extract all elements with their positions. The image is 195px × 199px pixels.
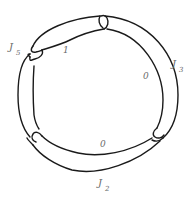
clasp-left [28, 46, 42, 60]
svg-text:2: 2 [104, 185, 110, 193]
svg-text:3: 3 [179, 66, 184, 74]
svg-text:5: 5 [16, 49, 21, 57]
svg-text:J: J [96, 177, 103, 188]
svg-text:J: J [7, 41, 14, 52]
clasp-lower-left [27, 132, 42, 145]
label-j3: J 3 [170, 58, 184, 74]
framing-label-j5: 1 [63, 45, 69, 55]
label-j2: J 2 [96, 177, 110, 193]
framing-label-j2: 0 [100, 139, 106, 149]
label-j5: J 5 [7, 41, 21, 57]
band-clasp-diagram: J 5 J 3 J 2 1 0 0 [0, 0, 195, 199]
svg-text:J: J [170, 58, 177, 69]
band-j5-left [18, 54, 39, 137]
clasp-lower-right [152, 128, 164, 141]
framing-label-j3: 0 [143, 71, 149, 81]
clasp-top [99, 16, 108, 29]
band-j3 [105, 16, 178, 138]
band-j2 [33, 136, 160, 171]
